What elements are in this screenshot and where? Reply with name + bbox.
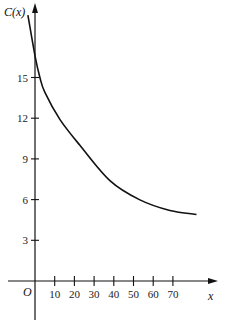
y-tick-label: 3 <box>23 234 29 246</box>
x-ticks: 10203040506070 <box>49 276 179 300</box>
x-tick-label: 20 <box>69 288 81 300</box>
x-tick-label: 60 <box>148 288 160 300</box>
cost-curve <box>28 15 197 214</box>
y-tick-label: 9 <box>23 153 29 165</box>
x-tick-label: 70 <box>167 288 179 300</box>
y-tick-label: 6 <box>23 194 29 206</box>
x-axis-title: x <box>207 289 214 303</box>
y-axis-title: C(x) <box>4 5 25 19</box>
x-tick-label: 50 <box>128 288 140 300</box>
y-tick-label: 12 <box>17 112 28 124</box>
x-axis-arrow-icon <box>208 278 218 284</box>
y-tick-label: 15 <box>17 72 29 84</box>
origin-label: O <box>23 285 32 299</box>
y-ticks: 3691215 <box>17 72 39 247</box>
x-tick-label: 10 <box>49 288 61 300</box>
x-tick-label: 30 <box>89 288 101 300</box>
chart: 3691215 10203040506070 C(x) x O <box>0 0 227 334</box>
y-axis-arrow-icon <box>32 3 38 13</box>
x-tick-label: 40 <box>108 288 120 300</box>
